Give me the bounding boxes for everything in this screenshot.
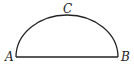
label-a: A [4, 50, 14, 64]
semicircle-diagram: A B C [0, 0, 134, 70]
arc-acb [16, 15, 118, 57]
label-c: C [63, 2, 72, 16]
label-b: B [120, 50, 130, 64]
